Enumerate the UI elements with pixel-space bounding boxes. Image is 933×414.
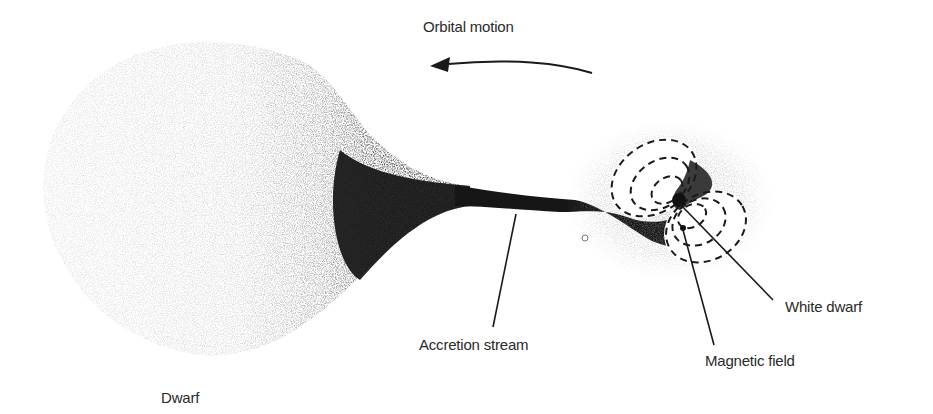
orbital-motion-arrow-icon — [430, 57, 592, 73]
accretion-stream-pointer — [493, 214, 516, 327]
orbital-motion-label: Orbital motion — [423, 18, 514, 35]
white-dwarf-icon — [672, 193, 686, 207]
magnetic-field-label: Magnetic field — [705, 352, 795, 369]
dwarf-label: Dwarf — [161, 389, 199, 406]
dwarf-lobe — [43, 42, 470, 356]
white-dwarf-label: White dwarf — [785, 298, 862, 315]
accretion-stream-label: Accretion stream — [419, 336, 528, 353]
